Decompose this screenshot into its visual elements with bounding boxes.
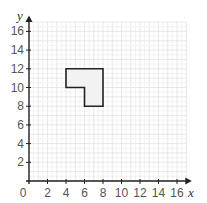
svg-text:4: 4	[17, 137, 24, 151]
svg-text:8: 8	[17, 99, 24, 113]
svg-text:14: 14	[11, 43, 25, 57]
svg-text:14: 14	[152, 186, 166, 200]
svg-text:16: 16	[11, 24, 25, 38]
shape-layer	[66, 69, 103, 106]
svg-text:10: 10	[11, 81, 25, 95]
svg-text:2: 2	[17, 155, 24, 169]
svg-text:6: 6	[81, 186, 88, 200]
svg-text:2: 2	[44, 186, 51, 200]
l-shape-polygon	[66, 69, 103, 106]
svg-text:10: 10	[115, 186, 129, 200]
svg-text:12: 12	[133, 186, 147, 200]
svg-text:0: 0	[20, 186, 27, 200]
svg-text:6: 6	[17, 118, 24, 132]
x-axis-arrow-icon	[185, 178, 191, 185]
svg-text:x: x	[187, 185, 194, 200]
svg-text:12: 12	[11, 62, 25, 76]
svg-text:y: y	[15, 8, 23, 23]
svg-text:4: 4	[63, 186, 70, 200]
coordinate-grid: 2468101214162468101214160xy	[0, 0, 207, 203]
y-axis-arrow-icon	[26, 16, 33, 23]
svg-text:16: 16	[170, 186, 184, 200]
grid-lines	[29, 22, 186, 181]
svg-text:8: 8	[100, 186, 107, 200]
